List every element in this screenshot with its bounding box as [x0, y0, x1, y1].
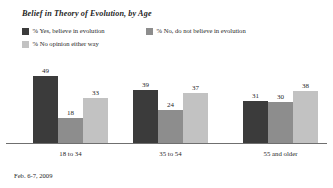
bar-value-label: 33 — [83, 89, 108, 97]
bar — [158, 110, 183, 143]
bar-value-label: 49 — [33, 67, 58, 75]
bar-group-bars: 313038 — [243, 56, 318, 143]
bar-group-bars: 392437 — [133, 56, 208, 143]
bar — [293, 91, 318, 143]
bar — [243, 101, 268, 143]
chart-legend: % Yes, believe in evolution % No, do not… — [22, 27, 322, 53]
bar-column: 38 — [293, 56, 318, 143]
bar — [33, 76, 58, 143]
bar-column: 33 — [83, 56, 108, 143]
legend-label-no: % No, do not believe in evolution — [157, 27, 246, 35]
legend-label-no-opinion: % No opinion either way — [33, 40, 99, 48]
footnote: Feb. 6-7, 2009 — [14, 172, 52, 179]
bar — [58, 118, 83, 143]
category-label: 35 to 54 — [133, 150, 208, 157]
bar-group-bars: 491833 — [33, 56, 108, 143]
legend-swatch-no-opinion — [22, 41, 29, 48]
legend-label-yes: % Yes, believe in evolution — [33, 27, 105, 35]
bar — [133, 90, 158, 143]
category-label: 55 and older — [243, 150, 318, 157]
bar-column: 37 — [183, 56, 208, 143]
legend-row-1: % Yes, believe in evolution % No, do not… — [22, 27, 322, 40]
bar-value-label: 18 — [58, 109, 83, 117]
bar-value-label: 24 — [158, 101, 183, 109]
bar-value-label: 31 — [243, 92, 268, 100]
bar-column: 18 — [58, 56, 83, 143]
legend-swatch-no — [146, 28, 153, 35]
chart-figure: Belief in Theory of Evolution, by Age % … — [0, 0, 333, 188]
legend-item-no: % No, do not believe in evolution — [146, 27, 246, 35]
bar-value-label: 30 — [268, 93, 293, 101]
chart-title: Belief in Theory of Evolution, by Age — [22, 9, 152, 18]
legend-row-2: % No opinion either way — [22, 40, 322, 53]
bar — [83, 98, 108, 143]
bar-column: 30 — [268, 56, 293, 143]
bar-value-label: 39 — [133, 81, 158, 89]
bar-value-label: 38 — [293, 82, 318, 90]
bar-column: 31 — [243, 56, 268, 143]
legend-item-yes: % Yes, believe in evolution — [22, 27, 146, 35]
category-label: 18 to 34 — [33, 150, 108, 157]
legend-item-no-opinion: % No opinion either way — [22, 40, 99, 48]
bar — [183, 93, 208, 143]
legend-swatch-yes — [22, 28, 29, 35]
bar-value-label: 37 — [183, 84, 208, 92]
bar-column: 39 — [133, 56, 158, 143]
bar-column: 24 — [158, 56, 183, 143]
bar — [268, 102, 293, 143]
bar-column: 49 — [33, 56, 58, 143]
x-axis-line — [6, 143, 327, 144]
plot-area: 491833392437313038 — [0, 56, 333, 144]
